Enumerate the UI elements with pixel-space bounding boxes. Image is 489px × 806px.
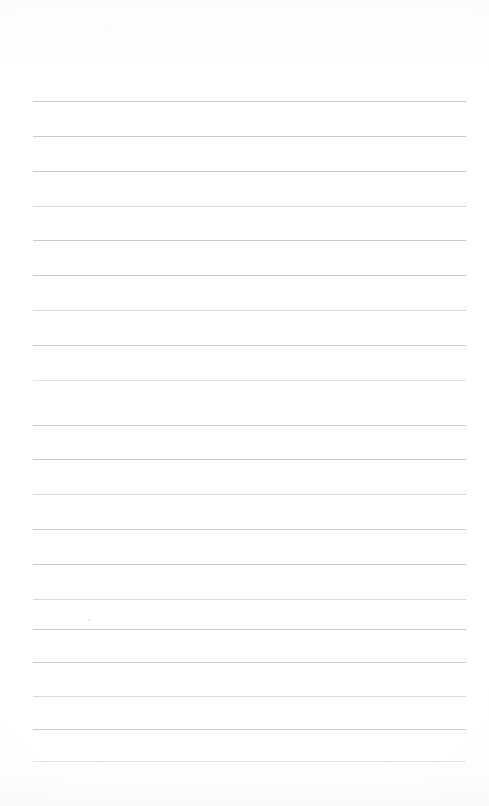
scan-speck-5 <box>452 24 453 25</box>
rule-line-2 <box>33 136 466 137</box>
rule-line-9 <box>33 380 466 381</box>
rule-line-7 <box>33 310 466 311</box>
rule-line-1 <box>33 101 466 102</box>
rule-line-6 <box>33 275 466 276</box>
ink-speck-1 <box>88 619 90 621</box>
scan-speck-2 <box>232 35 233 36</box>
rule-line-17 <box>33 662 466 663</box>
scanned-page <box>0 0 489 806</box>
rule-line-14 <box>33 564 466 565</box>
scan-speck-3 <box>104 31 105 32</box>
rule-line-5 <box>33 240 466 241</box>
rule-line-20 <box>33 761 466 762</box>
rule-line-4 <box>33 206 466 207</box>
rule-line-3 <box>33 171 466 172</box>
rule-line-16 <box>33 629 466 630</box>
rule-line-19 <box>33 729 466 730</box>
rule-line-8 <box>33 345 466 346</box>
rule-line-13 <box>33 529 466 530</box>
rule-line-11 <box>33 459 466 460</box>
scan-speck-7 <box>310 790 311 791</box>
rule-line-15 <box>33 599 466 600</box>
rule-line-12 <box>33 494 466 495</box>
scan-speck-6 <box>28 778 29 779</box>
scan-speck-4 <box>405 20 406 21</box>
rule-line-18 <box>33 696 466 697</box>
ruled-lines-layer <box>0 0 489 806</box>
rule-line-10 <box>33 425 466 426</box>
